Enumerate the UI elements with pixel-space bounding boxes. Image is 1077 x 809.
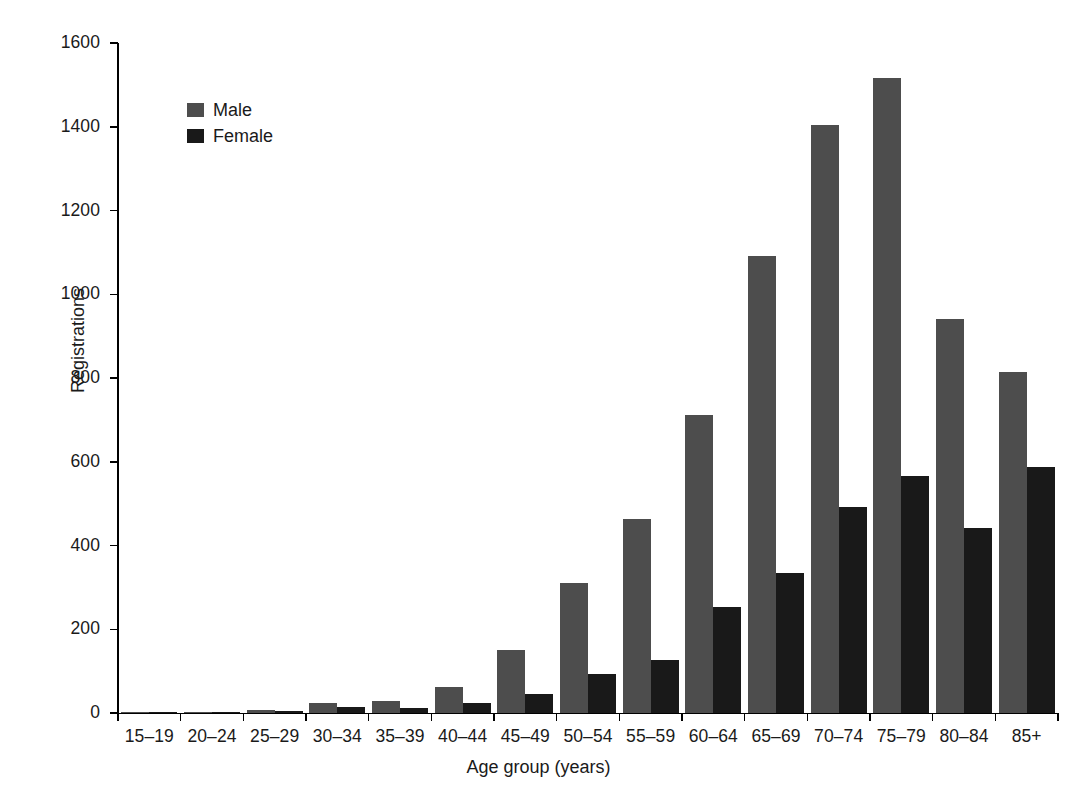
x-axis-tick — [619, 713, 621, 721]
bar-male-75-79 — [873, 78, 901, 713]
bar-female-50-54 — [588, 674, 616, 713]
bar-male-60-64 — [685, 415, 713, 713]
y-axis-tick-label: 1600 — [38, 34, 100, 52]
y-axis-tick-label: 600 — [38, 453, 100, 471]
x-axis-tick — [681, 713, 683, 721]
x-axis-tick — [995, 713, 997, 721]
x-axis-tick — [807, 713, 809, 721]
bar-male-45-49 — [497, 650, 525, 713]
x-axis-tick — [932, 713, 934, 721]
x-axis-tick-label: 85+ — [982, 726, 1072, 746]
y-axis-tick-label: 400 — [38, 537, 100, 555]
x-axis-tick — [368, 713, 370, 721]
bar-male-80-84 — [936, 319, 964, 713]
chart-legend: MaleFemale — [187, 98, 273, 150]
bar-male-85+ — [999, 372, 1027, 713]
bar-male-65-69 — [748, 256, 776, 713]
x-axis-tick — [180, 713, 182, 721]
y-axis-tick — [110, 629, 118, 631]
bar-female-55-59 — [651, 660, 679, 713]
x-axis-tick — [556, 713, 558, 721]
bar-chart-figure: 16001400120010008006004002000 Registrati… — [0, 0, 1077, 809]
bar-male-40-44 — [435, 687, 463, 713]
bar-male-30-34 — [309, 703, 337, 713]
bar-female-70-74 — [839, 507, 867, 713]
legend-label: Female — [213, 127, 273, 145]
x-axis-tick — [744, 713, 746, 721]
bar-male-55-59 — [623, 519, 651, 713]
y-axis-tick — [110, 126, 118, 128]
y-axis-tick — [110, 377, 118, 379]
bar-female-40-44 — [463, 703, 491, 713]
legend-item-male: Male — [187, 98, 273, 122]
y-axis-tick — [110, 545, 118, 547]
y-axis-tick — [110, 461, 118, 463]
bar-female-75-79 — [901, 476, 929, 713]
legend-label: Male — [213, 101, 252, 119]
bar-female-30-34 — [337, 707, 365, 713]
x-axis-tick — [493, 713, 495, 721]
x-axis-tick — [243, 713, 245, 721]
y-axis-title: Registrations — [68, 241, 89, 441]
bar-male-35-39 — [372, 701, 400, 713]
x-axis-tick — [305, 713, 307, 721]
y-axis-tick-label: 1400 — [38, 118, 100, 136]
bar-male-50-54 — [560, 583, 588, 713]
bar-female-35-39 — [400, 708, 428, 713]
bar-female-85+ — [1027, 467, 1055, 713]
bar-female-25-29 — [275, 711, 303, 713]
bar-male-25-29 — [247, 710, 275, 713]
x-axis-tick — [431, 713, 433, 721]
y-axis-tick-label: 200 — [38, 620, 100, 638]
legend-swatch-icon — [187, 129, 204, 143]
x-axis-tick — [1057, 713, 1059, 721]
y-axis-tick-label: 0 — [38, 704, 100, 722]
bar-female-15-19 — [149, 712, 177, 713]
x-axis-tick — [869, 713, 871, 721]
y-axis-tick-label: 1200 — [38, 202, 100, 220]
y-axis-tick — [110, 42, 118, 44]
x-axis-title: Age group (years) — [0, 757, 1077, 778]
legend-swatch-icon — [187, 103, 204, 117]
x-axis-tick — [117, 713, 119, 721]
bar-female-60-64 — [713, 607, 741, 713]
bar-male-70-74 — [811, 125, 839, 713]
bar-female-45-49 — [525, 694, 553, 713]
bar-male-20-24 — [184, 712, 212, 713]
bar-female-65-69 — [776, 573, 804, 713]
bar-female-80-84 — [964, 528, 992, 713]
y-axis-tick — [110, 294, 118, 296]
bar-male-15-19 — [121, 712, 149, 713]
legend-item-female: Female — [187, 124, 273, 148]
y-axis-tick — [110, 210, 118, 212]
bar-female-20-24 — [212, 712, 240, 713]
